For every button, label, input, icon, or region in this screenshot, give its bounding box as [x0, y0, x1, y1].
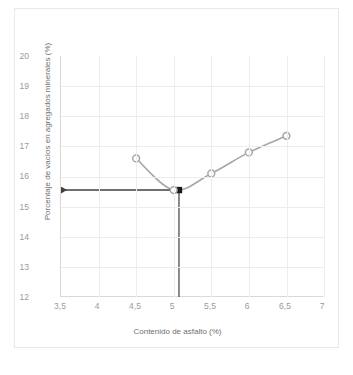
- gridline-y-18: [61, 116, 324, 117]
- gridline-y-14: [61, 237, 324, 238]
- x-tick-label-6: 6: [232, 302, 262, 311]
- x-tick-label-4-5: 4,5: [120, 302, 150, 311]
- gridline-y-17: [61, 146, 324, 147]
- gridline-x-6-5: [287, 56, 288, 297]
- gridline-x-7: [324, 56, 325, 297]
- x-tick-label-3-5: 3,5: [45, 302, 75, 311]
- gridline-x-5: [174, 56, 175, 297]
- chart-figure: Porcentaje de vacíos en agregados minera…: [14, 8, 339, 348]
- x-tick-label-7: 7: [307, 302, 337, 311]
- y-tick-label-17: 17: [7, 142, 29, 151]
- x-tick-label-5: 5: [157, 302, 187, 311]
- gridline-y-16: [61, 177, 324, 178]
- y-tick-label-15: 15: [7, 203, 29, 212]
- x-tick-label-6-5: 6,5: [270, 302, 300, 311]
- y-tick-label-19: 19: [7, 82, 29, 91]
- x-tick-label-5-5: 5,5: [195, 302, 225, 311]
- y-tick-label-20: 20: [7, 52, 29, 61]
- gridline-y-15: [61, 207, 324, 208]
- gridline-x-5-5: [211, 56, 212, 297]
- gridline-x-4: [99, 56, 100, 297]
- y-tick-label-16: 16: [7, 172, 29, 181]
- y-axis-label: Porcentaje de vacíos en agregados minera…: [43, 17, 52, 247]
- gridline-x-4-5: [136, 56, 137, 297]
- x-tick-label-4: 4: [82, 302, 112, 311]
- gridline-y-19: [61, 86, 324, 87]
- y-tick-label-14: 14: [7, 233, 29, 242]
- annotation-leader-lines: [61, 187, 182, 297]
- gridline-y-13: [61, 267, 324, 268]
- y-tick-label-18: 18: [7, 112, 29, 121]
- y-tick-label-12: 12: [7, 293, 29, 302]
- y-tick-label-13: 13: [7, 263, 29, 272]
- plot-area: [60, 56, 323, 297]
- x-axis-label: Contenido de asfalto (%): [15, 327, 340, 336]
- gridline-x-6: [249, 56, 250, 297]
